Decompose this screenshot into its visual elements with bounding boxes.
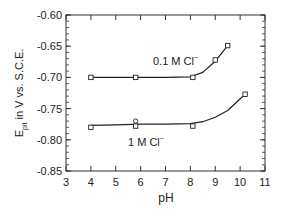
data-point: [89, 75, 93, 79]
series-label-1M: 1 M Cl−: [128, 135, 164, 148]
data-point: [191, 75, 195, 79]
y-tick-label: -0.85: [37, 165, 62, 177]
x-tick-label: 4: [88, 176, 94, 188]
x-tick-label: 11: [259, 176, 270, 188]
x-tick-label: 10: [234, 176, 246, 188]
data-point: [133, 119, 137, 123]
axes: 34567891011-0.60-0.65-0.70-0.75-0.80-0.8…: [37, 9, 271, 188]
fit-curve: [91, 94, 245, 125]
plot-frame: [66, 15, 265, 171]
x-tick-label: 5: [113, 176, 119, 188]
data-point: [133, 124, 137, 128]
y-tick-label: -0.70: [37, 71, 62, 83]
y-tick-label: -0.75: [37, 103, 62, 115]
data-point: [191, 124, 195, 128]
x-axis-label: pH: [158, 191, 173, 205]
x-tick-label: 6: [138, 176, 144, 188]
data-point: [213, 58, 217, 62]
series-label-0-1M: 0.1 M Cl−: [153, 54, 198, 67]
series-labels: 0.1 M Cl− 1 M Cl−: [128, 54, 198, 148]
x-tick-label: 7: [162, 176, 168, 188]
y-tick-label: -0.80: [37, 134, 62, 146]
y-axis-label: Epit in V vs. S.C.E.: [13, 49, 29, 138]
chart-canvas: 34567891011-0.60-0.65-0.70-0.75-0.80-0.8…: [0, 0, 282, 216]
x-tick-label: 9: [212, 176, 218, 188]
x-tick-label: 8: [187, 176, 193, 188]
x-tick-label: 3: [63, 176, 69, 188]
data-point: [89, 125, 93, 129]
data-point: [225, 43, 229, 47]
data-point: [133, 75, 137, 79]
y-tick-label: -0.60: [37, 9, 62, 21]
y-tick-label: -0.65: [37, 40, 62, 52]
svg-text:Epit in V vs. S.C.E.: Epit in V vs. S.C.E.: [13, 49, 29, 138]
pitting-potential-chart: 34567891011-0.60-0.65-0.70-0.75-0.80-0.8…: [0, 0, 282, 216]
data-point: [243, 92, 247, 96]
